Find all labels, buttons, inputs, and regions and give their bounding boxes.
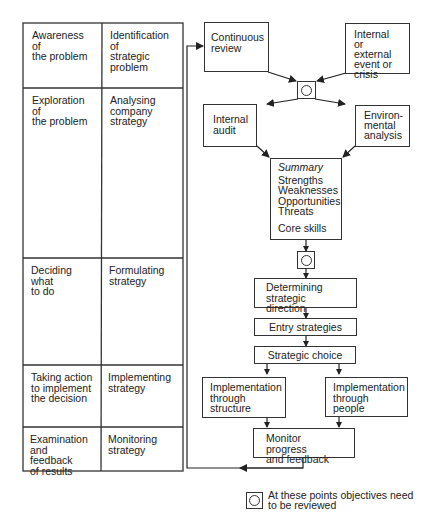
- cell-text: to do: [31, 286, 94, 297]
- cell-text: Identification of: [110, 30, 176, 51]
- internal-audit-box: Internal audit: [203, 104, 257, 147]
- box-text: strategic direction: [266, 293, 345, 314]
- box-text: structure: [210, 403, 278, 414]
- implementation-structure-box: Implementation through structure: [202, 377, 286, 418]
- determining-direction-box: Determining strategic direction: [254, 278, 357, 308]
- box-text: and feedback: [266, 454, 342, 465]
- cell-text: Examination: [30, 434, 93, 445]
- cell-text: Implementing: [108, 372, 174, 383]
- summary-item: Core skills: [278, 223, 334, 234]
- event-crisis-box: Internal or external event or crisis: [345, 23, 410, 74]
- cell-text: Taking action: [31, 372, 94, 383]
- cell-text: the problem: [32, 116, 95, 127]
- cell-text: strategic: [110, 51, 176, 62]
- activity-formulating: Formulating strategy: [102, 260, 182, 291]
- stage-taking-action: Taking action to implement the decision: [24, 367, 101, 409]
- monitor-progress-box: Monitor progress and feedback: [253, 428, 355, 458]
- box-text: Strategic choice: [268, 349, 343, 361]
- activity-monitoring: Monitoring strategy: [101, 429, 181, 460]
- stage-examination: Examination and feedback of results: [23, 429, 100, 481]
- activity-analysing: Analysing company strategy: [103, 90, 183, 132]
- cell-text: Analysing: [110, 95, 176, 106]
- cell-text: strategy: [108, 445, 174, 456]
- cell-text: the problem: [32, 51, 95, 62]
- summary-title: Summary: [278, 162, 334, 173]
- legend-line: to be reviewed: [268, 500, 413, 510]
- cell-text: Formulating: [109, 265, 175, 276]
- stage-deciding: Deciding what to do: [24, 260, 101, 302]
- box-text: Implementation: [210, 382, 278, 393]
- review-point-icon: [301, 255, 312, 266]
- summary-item: Weaknesses: [278, 185, 334, 196]
- box-text: Entry strategies: [269, 321, 342, 333]
- box-text: or external: [354, 39, 401, 59]
- box-text: audit: [213, 125, 247, 136]
- box-text: Internal: [213, 114, 247, 125]
- summary-box: Summary Strengths Weaknesses Opportuniti…: [270, 158, 342, 240]
- environmental-analysis-box: Environ- mental analysis: [355, 105, 410, 147]
- activity-implementing: Implementing strategy: [101, 367, 181, 398]
- cell-text: Exploration of: [32, 95, 95, 116]
- review-point-2: [297, 251, 315, 269]
- cell-text: strategy: [108, 383, 174, 394]
- box-text: Continuous: [211, 32, 262, 43]
- box-text: Monitor progress: [266, 433, 342, 454]
- stage-awareness: Awareness of the problem: [25, 25, 102, 67]
- cell-text: problem: [110, 62, 176, 73]
- legend-review-point: [246, 492, 263, 509]
- box-text: Implementation: [333, 382, 400, 393]
- review-point-icon: [249, 495, 260, 506]
- cell-text: the decision: [31, 393, 94, 404]
- implementation-people-box: Implementation through people: [325, 377, 408, 417]
- activity-identification: Identification of strategic problem: [103, 25, 183, 77]
- box-text: review: [211, 43, 262, 54]
- box-text: Determining: [266, 282, 345, 293]
- box-text: analysis: [364, 130, 401, 140]
- strategic-choice-box: Strategic choice: [254, 346, 356, 364]
- cell-text: of results: [30, 466, 93, 477]
- box-text: people: [333, 403, 400, 414]
- cell-text: Deciding what: [31, 265, 94, 286]
- review-point-icon: [301, 85, 312, 96]
- cell-text: Monitoring: [108, 434, 174, 445]
- legend-text: At these points objectives need to be re…: [268, 490, 413, 510]
- stage-exploration: Exploration of the problem: [25, 90, 102, 132]
- cell-text: strategy: [110, 116, 176, 127]
- cell-text: Awareness of: [32, 30, 95, 51]
- continuous-review-box: Continuous review: [204, 22, 269, 72]
- entry-strategies-box: Entry strategies: [254, 318, 357, 336]
- summary-item: Threats: [278, 206, 334, 217]
- box-text: crisis: [354, 69, 401, 79]
- cell-text: strategy: [109, 276, 175, 287]
- review-point-1: [297, 81, 316, 99]
- cell-text: and feedback: [30, 445, 93, 466]
